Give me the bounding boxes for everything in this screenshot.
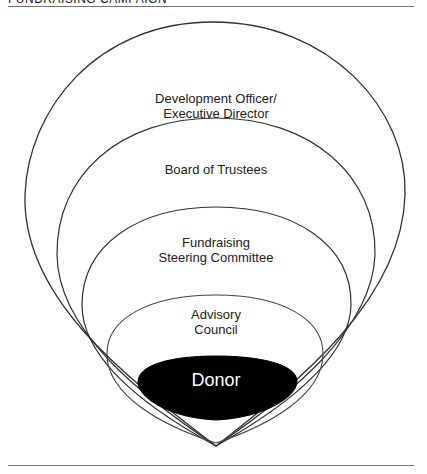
advisory-layer-label: Advisory Council (106, 307, 326, 337)
footer-rule (8, 465, 414, 466)
outer-layer-label: Development Officer/ Executive Director (106, 91, 326, 121)
donor-label: Donor (136, 370, 296, 391)
steering-layer-label: Fundraising Steering Committee (106, 235, 326, 265)
board-layer-label: Board of Trustees (106, 162, 326, 177)
